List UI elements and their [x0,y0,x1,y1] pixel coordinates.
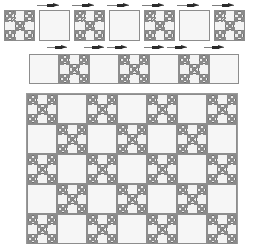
fractal-subcell-l3 [196,136,198,138]
grid-empty-cell [87,124,117,154]
fractal-subcell-l3 [90,103,92,105]
fractal-pattern [60,55,88,83]
fractal-subcell-l3 [14,13,16,15]
fractal-subcell-l3 [180,193,182,195]
fractal-subcell-l3 [106,166,108,168]
fractal-subcell-l3 [139,133,141,135]
fractal-subcell-l3 [229,103,231,105]
fractal-tile [4,10,35,41]
fractal-subcell-l3 [201,63,203,65]
fractal-subcell-l3 [166,20,168,22]
fractal-subcell-l3 [243,13,245,15]
fractal-subcell-l3 [173,32,175,34]
fractal-subcell-l3 [126,206,128,208]
figure-canvas [0,0,263,244]
fractal-subcell-l3 [33,32,35,34]
grid-empty-cell [27,124,57,154]
fractal-subcell-l3 [163,23,165,25]
fractal-subcell-l3 [128,76,130,78]
flow-arrow-icon [177,3,199,9]
fractal-pattern [88,155,116,183]
fractal-subcell-l3 [233,23,235,25]
fractal-subcell-l3 [235,157,237,159]
fractal-subcell-l3 [106,226,108,228]
fractal-subcell-l3 [33,20,35,22]
grid-empty-cell [207,184,237,214]
fractal-subcell-l3 [227,29,229,31]
fractal-subcell-l3 [76,196,78,198]
empty-tile [209,54,239,84]
fractal-subcell-l3 [224,13,226,15]
fractal-pattern [28,155,56,183]
empty-tile [89,54,119,84]
fractal-subcell-l3 [186,187,188,189]
fractal-subcell-l3 [120,193,122,195]
fractal-subcell-l3 [49,223,51,225]
arrow-head [53,3,59,7]
flow-arrow-icon [84,45,104,51]
fractal-subcell-l3 [120,133,122,135]
empty-tile [29,54,59,84]
fractal-subcell-l3 [7,20,9,22]
fractal-tile [144,10,175,41]
empty-tile [179,10,210,41]
fractal-subcell-l3 [23,23,25,25]
fractal-subcell-l3 [103,39,105,41]
grid-fractal-cell [147,214,177,244]
fractal-subcell-l3 [243,20,245,22]
fractal-subcell-l3 [216,236,218,238]
fractal-subcell-l3 [103,13,105,15]
fractal-subcell-l3 [169,223,171,225]
fractal-subcell-l3 [33,13,35,15]
fractal-subcell-l3 [216,157,218,159]
fractal-subcell-l3 [201,82,203,84]
fractal-pattern [88,215,116,243]
grid-fractal-cell [87,214,117,244]
fractal-tile [179,54,209,84]
fractal-subcell-l3 [229,223,231,225]
fractal-pattern [58,125,86,153]
grid-fractal-cell [87,154,117,184]
fractal-subcell-l3 [36,217,38,219]
fractal-subcell-l3 [226,226,228,228]
fractal-subcell-l3 [96,116,98,118]
fractal-subcell-l3 [69,203,71,205]
fractal-subcell-l3 [236,20,238,22]
fractal-subcell-l3 [196,196,198,198]
fractal-subcell-l3 [219,113,221,115]
fractal-subcell-l3 [156,176,158,178]
fractal-subcell-l3 [77,39,79,41]
fractal-subcell-l3 [189,143,191,145]
fractal-subcell-l3 [60,133,62,135]
fractal-subcell-l3 [235,163,237,165]
fractal-subcell-l3 [216,176,218,178]
fractal-subcell-l3 [84,39,86,41]
fractal-subcell-l3 [136,136,138,138]
fractal-pattern [148,215,176,243]
flow-arrow-icon [204,45,224,51]
fractal-subcell-l3 [90,163,92,165]
fractal-subcell-l3 [71,73,73,75]
fractal-subcell-l3 [96,157,98,159]
grid-fractal-cell [57,184,87,214]
grid-empty-cell [147,184,177,214]
fractal-subcell-l3 [156,116,158,118]
fractal-subcell-l3 [188,57,190,59]
empty-tile [109,10,140,41]
flow-arrow-icon [107,45,127,51]
fractal-subcell-l3 [235,97,237,99]
fractal-subcell-l3 [191,73,193,75]
fractal-subcell-l3 [235,236,237,238]
fractal-pattern [215,11,244,40]
fractal-subcell-l3 [217,39,219,41]
fractal-subcell-l3 [128,57,130,59]
flow-arrow-icon [142,3,164,9]
arrow-head [88,3,94,7]
fractal-subcell-l3 [169,103,171,105]
fractal-subcell-l3 [79,133,81,135]
fractal-subcell-l3 [216,217,218,219]
fractal-subcell-l3 [36,97,38,99]
fractal-subcell-l3 [30,163,32,165]
grid-fractal-cell [207,94,237,124]
grid-empty-cell [117,214,147,244]
